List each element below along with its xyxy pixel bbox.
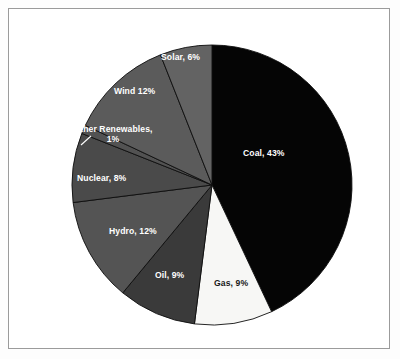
- pie-chart-figure: Coal, 43% Gas, 9% Oil, 9% Hydro, 12% Nuc…: [0, 0, 400, 359]
- pie-slice-group: [72, 45, 352, 325]
- pie-svg: [0, 0, 400, 359]
- chart-plot-area: Coal, 43% Gas, 9% Oil, 9% Hydro, 12% Nuc…: [0, 0, 400, 359]
